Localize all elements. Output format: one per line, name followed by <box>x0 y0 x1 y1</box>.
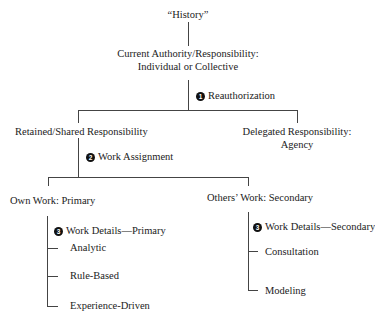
connector-to-others-work <box>248 177 249 186</box>
current-authority-line2: Individual or Collective <box>117 60 258 73</box>
connector-to-delegated <box>297 110 298 123</box>
secondary-tick-consultation <box>248 251 258 252</box>
item-consultation: Consultation <box>265 245 319 258</box>
step-label: Reauthorization <box>208 90 275 101</box>
node-delegated: Delegated Responsibility: Agency <box>243 125 352 151</box>
step-label: Work Assignment <box>98 151 173 162</box>
connector-level2-horizontal <box>48 177 249 178</box>
node-own-work: Own Work: Primary <box>10 194 95 207</box>
primary-tick-rule-based <box>47 276 58 277</box>
item-rule-based: Rule-Based <box>70 269 119 282</box>
step-work-details-primary: 3Work Details—Primary <box>54 224 166 237</box>
node-history: “History” <box>168 8 209 21</box>
primary-tick-experience <box>47 306 58 307</box>
node-others-work: Others’ Work: Secondary <box>207 191 313 204</box>
connector-to-own-work <box>48 177 49 186</box>
step-number-3-icon: 3 <box>54 227 63 236</box>
item-modeling: Modeling <box>265 284 306 297</box>
step-number-1-icon: 1 <box>196 92 205 101</box>
connector-to-retained <box>78 110 79 123</box>
delegated-line1: Delegated Responsibility: <box>243 125 352 138</box>
connector-level1-horizontal <box>78 110 298 111</box>
item-analytic: Analytic <box>70 241 106 254</box>
connector-root-current <box>188 22 189 46</box>
primary-tick-analytic <box>47 248 58 249</box>
secondary-tick-modeling <box>248 290 258 291</box>
connector-current-split <box>188 80 189 111</box>
step-number-2-icon: 2 <box>86 153 95 162</box>
connector-retained-split <box>78 138 79 178</box>
current-authority-line1: Current Authority/Responsibility: <box>117 47 258 60</box>
node-current-authority: Current Authority/Responsibility: Indivi… <box>117 47 258 73</box>
step-number-3-icon: 3 <box>253 223 262 232</box>
delegated-line2: Agency <box>243 138 352 151</box>
step-work-assignment: 2Work Assignment <box>86 150 173 163</box>
primary-branch-line <box>47 216 48 307</box>
step-reauthorization: 1Reauthorization <box>196 89 275 102</box>
step-label: Work Details—Secondary <box>265 221 375 232</box>
step-work-details-secondary: 3Work Details—Secondary <box>253 220 375 233</box>
step-label: Work Details—Primary <box>66 225 166 236</box>
item-experience-driven: Experience-Driven <box>70 299 150 312</box>
node-retained-shared: Retained/Shared Responsibility <box>15 125 148 138</box>
